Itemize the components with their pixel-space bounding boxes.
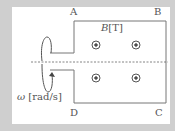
rotation-arrow-icon: [41, 37, 55, 92]
field-unit: [T]: [108, 22, 122, 33]
corner-c-label: C: [155, 108, 163, 118]
corner-b-label: B: [154, 7, 161, 17]
omega-symbol: ω: [17, 91, 25, 102]
loop-diagram: [0, 0, 175, 131]
corner-a-label: A: [70, 7, 77, 17]
corner-d-label: D: [70, 108, 78, 118]
field-label: B[T]: [101, 23, 123, 33]
angular-velocity-label: ω [rad/s]: [17, 92, 62, 102]
field-out-of-page-icon: [92, 41, 140, 82]
omega-unit: [rad/s]: [28, 91, 61, 102]
